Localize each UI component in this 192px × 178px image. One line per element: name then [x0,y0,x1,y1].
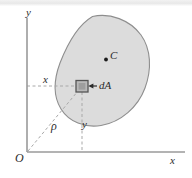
differential-area-element-inner [79,83,86,90]
y-axis-label: y [26,7,31,18]
centroid-label: C [110,50,117,61]
centroid-dot [104,58,108,62]
x-axis-label: x [170,155,175,166]
rho-distance-label: ρ [51,120,57,132]
x-distance-label: x [43,74,48,85]
differential-area-label: dA [99,80,111,91]
origin-label: O [15,152,24,164]
y-distance-label: y [82,119,87,130]
centroid-diagram [0,0,192,178]
area-blob [55,15,149,126]
figure-container: y x O x y ρ C dA [0,0,192,178]
